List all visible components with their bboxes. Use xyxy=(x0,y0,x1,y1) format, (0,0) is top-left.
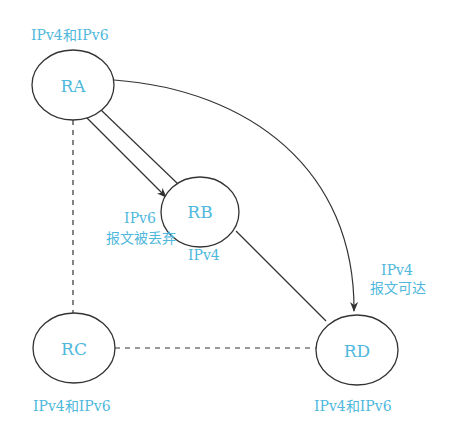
edge-ra-rb-solid xyxy=(101,110,178,184)
ipv6-annotation-line1: IPv6 xyxy=(100,210,180,227)
node-rb-protocol: IPv4 xyxy=(188,247,220,264)
edge-rb-rd-solid xyxy=(236,231,326,321)
node-rc-label: RC xyxy=(44,339,104,359)
node-rd-protocol: IPv4和IPv6 xyxy=(314,398,392,415)
node-ra-protocol: IPv4和IPv6 xyxy=(31,27,109,44)
node-rd-label: RD xyxy=(327,341,387,361)
ipv4-annotation-line1: IPv4 xyxy=(367,262,427,279)
node-rc-protocol: IPv4和IPv6 xyxy=(33,398,111,415)
ipv4-annotation-line2: 报文可达 xyxy=(355,280,440,297)
ipv6-annotation-line2: 报文被丢弃 xyxy=(96,230,186,247)
node-ra-label: RA xyxy=(43,76,103,96)
edge-ra-rb-arrow xyxy=(86,117,166,197)
